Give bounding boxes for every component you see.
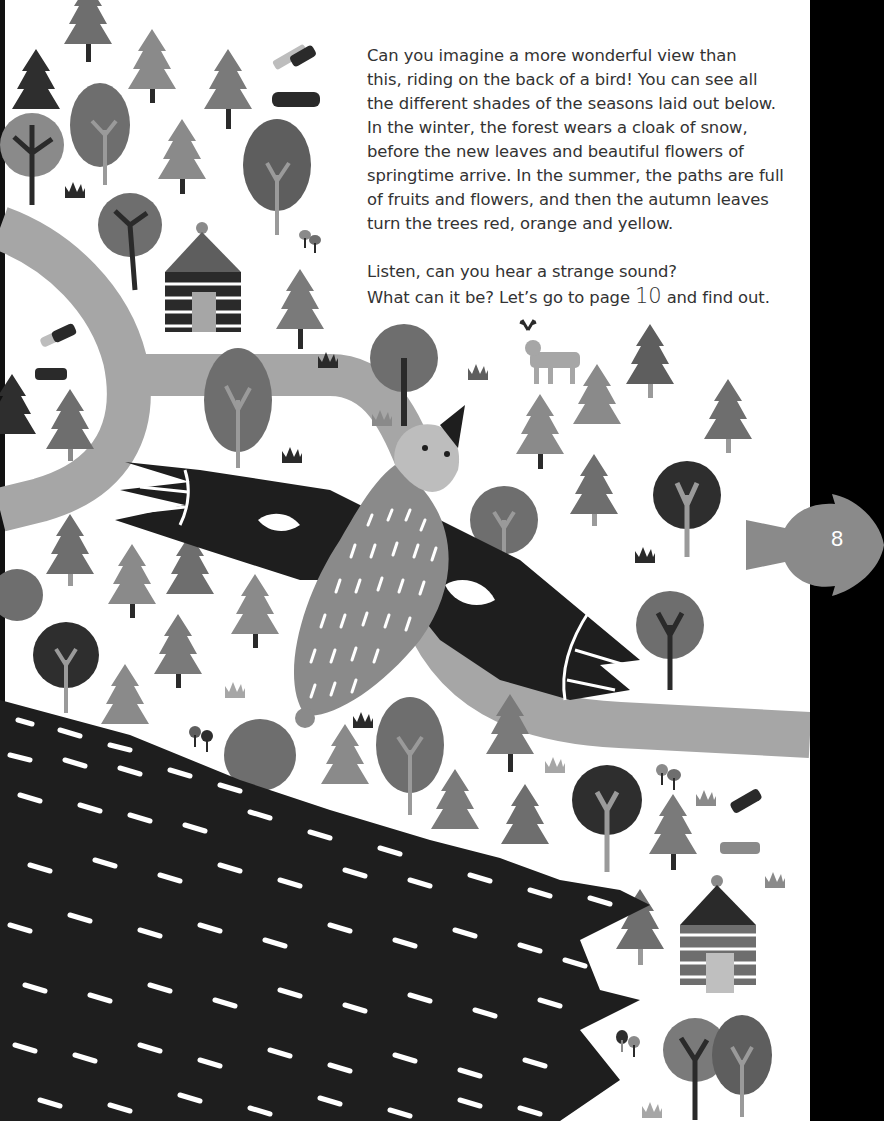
- story-paragraph-2: Listen, can you hear a strange sound? Wh…: [367, 260, 747, 310]
- page-number-tab: 8: [740, 490, 884, 600]
- story-text: Can you imagine a more wonderful view th…: [367, 44, 747, 334]
- text-line: What can it be? Let’s go to page 10 and …: [367, 284, 747, 310]
- text-line: Listen, can you hear a strange sound?: [367, 260, 747, 284]
- text-fragment: and find out.: [662, 288, 770, 307]
- text-line: springtime arrive. In the summer, the pa…: [367, 164, 747, 188]
- cabin: [165, 222, 241, 332]
- text-fragment: What can it be? Let’s go to page: [367, 288, 635, 307]
- text-line: of fruits and flowers, and then the autu…: [367, 188, 747, 212]
- text-line: this, riding on the back of a bird! You …: [367, 68, 747, 92]
- cabin: [680, 875, 756, 993]
- text-line: before the new leaves and beautiful flow…: [367, 140, 747, 164]
- leaf-shape-icon: [740, 490, 884, 600]
- text-line: the different shades of the seasons laid…: [367, 92, 747, 116]
- text-line: In the winter, the forest wears a cloak …: [367, 116, 747, 140]
- book-page: Can you imagine a more wonderful view th…: [0, 0, 810, 1121]
- page-reference: 10: [635, 284, 662, 308]
- text-line: turn the trees red, orange and yellow.: [367, 212, 747, 236]
- page-number: 8: [822, 526, 852, 552]
- text-line: Can you imagine a more wonderful view th…: [367, 44, 747, 68]
- story-paragraph-1: Can you imagine a more wonderful view th…: [367, 44, 747, 236]
